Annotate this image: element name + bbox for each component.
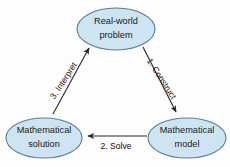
edge-solve: 2. Solve xyxy=(88,136,147,151)
mathematical-model-label-line2: model xyxy=(174,139,199,149)
edge-interpret: 3. Interpret xyxy=(48,48,89,114)
mathematical-model-ellipse[interactable] xyxy=(148,118,226,158)
mathematical-model-label-line1: Mathematical xyxy=(160,125,215,135)
modelling-cycle-diagram: 1. Construct 2. Solve 3. Interpret Real-… xyxy=(0,0,230,167)
mathematical-solution-label-line1: Mathematical xyxy=(17,125,72,135)
edge-label-construct: 1. Construct xyxy=(145,56,179,101)
edge-construct: 1. Construct xyxy=(143,47,179,112)
real-world-problem-label-line1: Real-world xyxy=(94,16,138,26)
node-mathematical-solution[interactable]: Mathematical solution xyxy=(6,118,82,158)
node-real-world-problem[interactable]: Real-world problem xyxy=(77,8,155,50)
mathematical-solution-ellipse[interactable] xyxy=(6,118,82,158)
real-world-problem-ellipse[interactable] xyxy=(77,8,155,50)
mathematical-solution-label-line2: solution xyxy=(28,139,60,149)
edge-label-solve: 2. Solve xyxy=(100,141,131,151)
node-mathematical-model[interactable]: Mathematical model xyxy=(148,118,226,158)
diagram-canvas: 1. Construct 2. Solve 3. Interpret Real-… xyxy=(0,0,230,167)
real-world-problem-label-line2: problem xyxy=(99,30,133,40)
